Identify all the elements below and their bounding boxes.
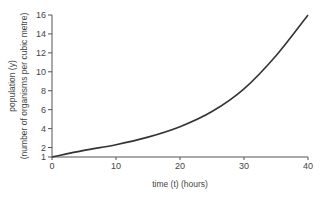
x-axis: 010203040	[49, 157, 313, 171]
y-tick-label: 10	[36, 67, 46, 77]
population-growth-chart: 1246810121416 010203040 time (t) (hours)…	[0, 0, 323, 197]
y-tick-label: 14	[36, 29, 46, 39]
y-tick-label: 12	[36, 48, 46, 58]
y-tick-label: 6	[41, 105, 46, 115]
x-tick-label: 10	[111, 161, 121, 171]
x-tick-label: 0	[49, 161, 54, 171]
y-tick-label: 1	[41, 152, 46, 162]
y-tick-label: 4	[41, 124, 46, 134]
x-tick-label: 40	[303, 161, 313, 171]
x-axis-label: time (t) (hours)	[152, 179, 208, 189]
population-curve	[52, 15, 308, 157]
y-tick-label: 8	[41, 86, 46, 96]
y-tick-label: 2	[41, 143, 46, 153]
y-axis: 1246810121416	[36, 10, 52, 162]
x-tick-label: 30	[239, 161, 249, 171]
y-axis-label: population (y)	[7, 60, 17, 112]
y-axis-sublabel: (number of organisms per cubic metre)	[19, 13, 29, 160]
x-tick-label: 20	[175, 161, 185, 171]
y-tick-label: 16	[36, 10, 46, 20]
